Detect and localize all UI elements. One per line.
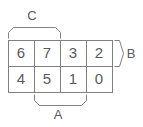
grid-cell-r1c3: 0: [86, 66, 112, 92]
grid-cell-r1c0: 4: [8, 66, 34, 92]
grid-cell-r0c0: 6: [8, 40, 34, 66]
grid-cell-r0c1: 7: [34, 40, 60, 66]
grid-cell-r1c1: 5: [34, 66, 60, 92]
brace-label-b: B: [124, 47, 138, 61]
grid-brace-diagram: 6 7 3 2 4 5 1 0 C B A: [0, 0, 143, 127]
brace-a-path: [35, 95, 87, 106]
brace-label-c: C: [24, 9, 40, 23]
brace-label-a: A: [50, 108, 66, 122]
grid-cell-r0c3: 2: [86, 40, 112, 66]
brace-b-path: [115, 41, 124, 67]
brace-c-path: [9, 28, 61, 39]
grid-cell-r0c2: 3: [60, 40, 86, 66]
grid-cell-r1c2: 1: [60, 66, 86, 92]
